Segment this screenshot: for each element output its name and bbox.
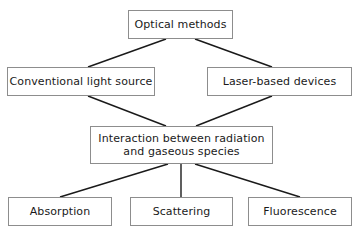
connector-optical-to-laser <box>195 39 272 67</box>
node-label-optical-methods: Optical methods <box>134 18 226 31</box>
connector-conventional-to-interaction <box>88 96 166 126</box>
node-fluorescence[interactable]: Fluorescence <box>248 197 352 226</box>
node-label-interaction-radiation-gaseous-species: Interaction between radiation and gaseou… <box>98 132 264 158</box>
node-scattering[interactable]: Scattering <box>130 197 233 226</box>
connector-laser-to-interaction <box>196 96 272 126</box>
node-label-fluorescence: Fluorescence <box>263 205 337 218</box>
node-optical-methods[interactable]: Optical methods <box>128 10 233 39</box>
node-label-laser-based-devices: Laser-based devices <box>223 75 337 88</box>
node-label-scattering: Scattering <box>153 205 211 218</box>
node-interaction-radiation-gaseous-species[interactable]: Interaction between radiation and gaseou… <box>90 126 273 164</box>
node-label-absorption: Absorption <box>30 205 91 218</box>
node-label-conventional-light-source: Conventional light source <box>10 75 153 88</box>
flowchart-diagram: Optical methodsConventional light source… <box>0 0 359 234</box>
connector-interaction-to-absorption <box>60 164 168 197</box>
connector-optical-to-conventional <box>88 39 166 67</box>
node-laser-based-devices[interactable]: Laser-based devices <box>207 67 352 96</box>
node-absorption[interactable]: Absorption <box>8 197 112 226</box>
node-conventional-light-source[interactable]: Conventional light source <box>7 67 155 96</box>
connector-interaction-to-fluorescence <box>195 164 300 197</box>
